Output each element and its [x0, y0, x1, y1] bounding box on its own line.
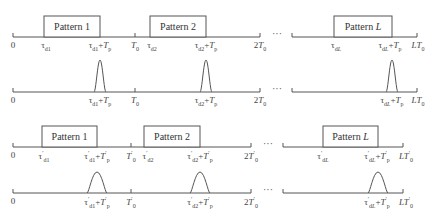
time-label: 2T0 — [254, 95, 267, 107]
received-pulse — [94, 60, 106, 92]
received-pulse — [190, 172, 210, 193]
time-label: τdL+Tp — [380, 95, 403, 107]
pattern-label: Pattern 1 — [54, 21, 90, 32]
time-label: τ′dL+T′p — [364, 150, 390, 163]
ellipsis: ··· — [272, 28, 282, 39]
time-label: τd2 — [147, 40, 157, 52]
received-pulse — [386, 60, 398, 92]
received-pulse — [87, 172, 107, 193]
time-label: 2T′0 — [244, 196, 258, 209]
time-label: τdL+Tp — [378, 40, 401, 52]
timing-diagram-canvas — [0, 0, 430, 223]
time-label: LT0 — [412, 95, 425, 107]
time-label: τ′dL — [317, 150, 328, 163]
time-label: τ′d2+T′p — [187, 196, 212, 209]
time-label: τ′d1+T′p — [84, 196, 109, 209]
received-pulse — [368, 172, 388, 193]
time-label: τd1+Tp — [89, 40, 112, 52]
time-label: 2T′0 — [244, 150, 258, 163]
pattern-label: Pattern L — [332, 131, 368, 142]
time-label: 0 — [11, 150, 16, 160]
time-label: 0 — [11, 95, 16, 105]
time-label: T0 — [131, 95, 139, 107]
pattern-label: Pattern 2 — [160, 21, 196, 32]
time-label: τd1 — [41, 40, 51, 52]
time-label: τdL — [331, 40, 341, 52]
time-label: τd2+Tp — [195, 95, 218, 107]
time-label: T0 — [131, 40, 139, 52]
time-label: τ′d1 — [39, 150, 50, 163]
time-label: T′0 — [126, 196, 135, 209]
time-label: LT′0 — [399, 150, 413, 163]
ellipsis: ··· — [263, 138, 273, 149]
ellipsis: ··· — [272, 83, 282, 94]
time-label: LT′0 — [399, 196, 413, 209]
time-label: τ′d2 — [143, 150, 154, 163]
ellipsis: ··· — [263, 184, 273, 195]
time-label: τ′d1+T′p — [84, 150, 109, 163]
time-label: τ′dL+T′p — [364, 196, 390, 209]
pattern-label: Pattern L — [345, 21, 381, 32]
pattern-label: Pattern 1 — [52, 131, 88, 142]
time-label: 0 — [11, 40, 16, 50]
pattern-label: Pattern 2 — [154, 131, 190, 142]
time-label: T′0 — [126, 150, 135, 163]
time-label: 2T0 — [254, 40, 267, 52]
time-label: LT0 — [412, 40, 425, 52]
received-pulse — [200, 60, 212, 92]
time-label: τ′d2+T′p — [187, 150, 212, 163]
time-label: τd2+Tp — [195, 40, 218, 52]
time-label: 0 — [11, 196, 16, 206]
time-label: τd1+Tp — [89, 95, 112, 107]
